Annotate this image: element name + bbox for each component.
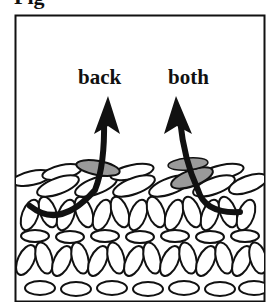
label-back: back: [78, 65, 122, 89]
label-both: both: [168, 65, 209, 89]
stitch-diagram: back both: [0, 0, 267, 302]
